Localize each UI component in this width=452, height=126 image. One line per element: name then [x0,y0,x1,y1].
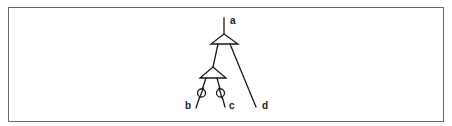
label-a: a [230,15,236,26]
top-node-triangle [211,34,238,44]
lower-node-triangle [200,67,226,78]
edge-top-to-d [230,44,256,107]
label-b: b [185,100,191,111]
label-d: d [262,100,268,111]
tree-diagram: a b c d [0,0,452,126]
label-c: c [229,100,235,111]
edge-top-to-lower [213,44,218,67]
